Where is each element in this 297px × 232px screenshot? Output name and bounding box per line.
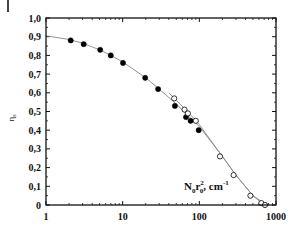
data-points (68, 38, 268, 208)
y-tick-label: 0,1 (29, 181, 42, 192)
open-data-point (231, 173, 236, 178)
filled-data-point (156, 87, 161, 92)
y-tick-label: 0,3 (29, 143, 42, 154)
x-tick-label: 1000 (266, 211, 286, 222)
svg-text:N0r20, cm-1: N0r20, cm-1 (184, 179, 229, 195)
y-tick-label: 0,9 (29, 31, 42, 42)
fit-curves (46, 36, 269, 205)
svg-text:ηs: ηs (6, 114, 17, 122)
x-tick-label: 1 (44, 211, 49, 222)
open-data-point (248, 193, 253, 198)
open-data-point (217, 154, 222, 159)
y-tick-label: 1,0 (29, 13, 42, 24)
x-tick-label: 10 (118, 211, 128, 222)
y-axis-ticks: 00,10,20,30,40,50,60,70,80,91,0 (29, 13, 277, 211)
filled-data-point (120, 60, 125, 65)
filled-data-point (172, 103, 177, 108)
y-tick-label: 0,2 (29, 162, 42, 173)
filled-data-point (196, 128, 201, 133)
filled-data-point (81, 42, 86, 47)
x-tick-label: 100 (192, 211, 207, 222)
y-tick-label: 0,8 (29, 50, 42, 61)
filled-data-point (188, 118, 193, 123)
filled-data-point (68, 38, 73, 43)
open-data-point (172, 96, 177, 101)
filled-data-point (98, 47, 103, 52)
fit-curve (46, 36, 264, 205)
y-tick-label: 0 (36, 200, 41, 211)
open-data-point (185, 111, 190, 116)
y-tick-label: 0,7 (29, 69, 42, 80)
x-axis-label: N0r20, cm-1 (184, 179, 229, 195)
y-tick-label: 0,5 (29, 106, 42, 117)
y-tick-label: 0,4 (29, 125, 42, 136)
y-tick-label: 0,6 (29, 87, 42, 98)
chart: 00,10,20,30,40,50,60,70,80,91,0 11010010… (0, 0, 297, 232)
filled-data-point (143, 75, 148, 80)
y-axis-label: ηs (6, 114, 17, 122)
open-data-point (193, 118, 198, 123)
filled-data-point (108, 53, 113, 58)
plot-frame (46, 18, 276, 205)
